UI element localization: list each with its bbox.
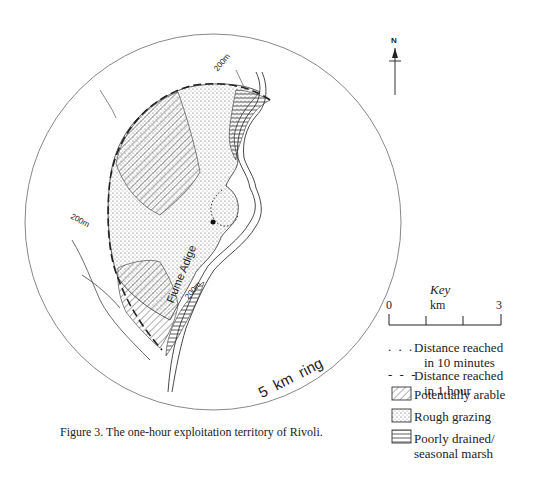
territory-map xyxy=(0,0,533,480)
scale-end: 3 xyxy=(496,298,502,313)
key-title: Key xyxy=(430,282,450,297)
contour-line xyxy=(100,90,116,118)
scale-start: 0 xyxy=(386,298,392,313)
legend-swatch-marsh xyxy=(392,430,411,443)
scale-unit: km xyxy=(430,298,445,313)
dotted-line-icon: . . . xyxy=(388,339,414,354)
rivoli-site-marker xyxy=(211,220,216,225)
legend-swatch-arable xyxy=(392,387,411,400)
north-arrow-icon xyxy=(392,48,398,58)
stream-line xyxy=(82,275,120,308)
figure-caption: Figure 3. The one-hour exploitation terr… xyxy=(60,425,323,440)
scale-bar xyxy=(389,314,501,325)
north-label: N xyxy=(391,36,397,45)
legend-swatch-grazing xyxy=(392,409,411,422)
